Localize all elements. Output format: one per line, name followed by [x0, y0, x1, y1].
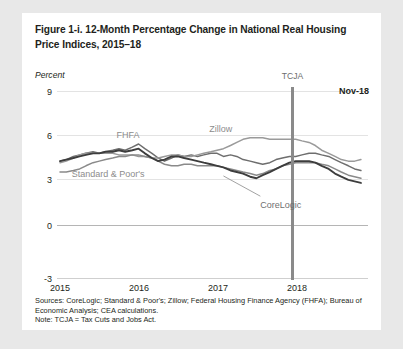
tcja-annotation-label: TCJA: [282, 71, 303, 81]
series-label-corelogic: CoreLogic: [260, 200, 301, 210]
tcja-definition-note: Note: TCJA = Tax Cuts and Jobs Act.: [35, 315, 373, 325]
figure-footnotes: Sources: CoreLogic; Standard & Poor's; Z…: [35, 296, 373, 325]
plot-area: 9 6 3 0 -3 2015 2016 2017 2018 TCJA Nov-…: [22, 13, 381, 330]
tcja-vertical-line: [291, 87, 294, 280]
series-label-zillow: Zillow: [209, 124, 232, 134]
sources-note: Sources: CoreLogic; Standard & Poor's; Z…: [35, 296, 373, 315]
last-observation-label: Nov-18: [339, 86, 369, 96]
series-label-standard-and-poors: Standard & Poor's: [72, 169, 145, 179]
figure-card: Figure 1-i. 12-Month Percentage Change i…: [22, 13, 381, 330]
corelogic-leader-line: [223, 176, 260, 196]
series-label-fhfa: FHFA: [117, 130, 140, 140]
